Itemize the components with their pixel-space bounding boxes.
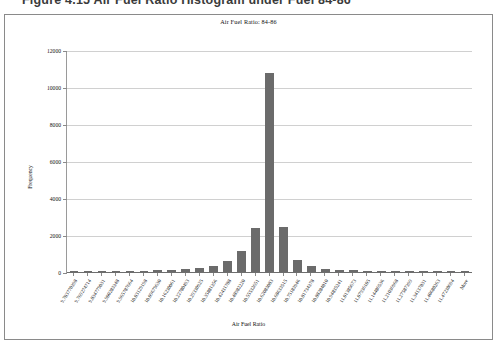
bar-slot bbox=[458, 51, 472, 272]
x-axis-tick bbox=[394, 273, 395, 276]
bar-slot bbox=[123, 51, 137, 272]
x-axis-tick bbox=[227, 273, 228, 276]
x-axis-tick bbox=[310, 273, 311, 276]
bar-slot bbox=[318, 51, 332, 272]
plot-area: 120001000080006000400020000 bbox=[66, 51, 472, 273]
x-axis-tick bbox=[269, 273, 270, 276]
bar-slot bbox=[388, 51, 402, 272]
bar-slot bbox=[95, 51, 109, 272]
bar-slot bbox=[291, 51, 305, 272]
x-axis-tick bbox=[450, 273, 451, 276]
x-axis-title: Air Fuel Ratio bbox=[5, 321, 492, 327]
bar-slot bbox=[67, 51, 81, 272]
chart-title: Air Fuel Ratio: 84-86 bbox=[5, 18, 492, 25]
bar-slot bbox=[137, 51, 151, 272]
bar bbox=[279, 227, 288, 272]
bar-slot bbox=[360, 51, 374, 272]
y-axis-tick-label: 12000 bbox=[47, 48, 61, 54]
bar bbox=[223, 261, 232, 272]
bar-slot bbox=[332, 51, 346, 272]
bar bbox=[265, 73, 274, 272]
x-axis-tick bbox=[436, 273, 437, 276]
bar bbox=[251, 228, 260, 272]
bar-slot bbox=[249, 51, 263, 272]
bar bbox=[237, 251, 246, 272]
x-axis-tick bbox=[422, 273, 423, 276]
x-axis-tick-labels: 9.7037703989.7692747149.8347790319.90028… bbox=[66, 277, 471, 327]
x-axis-tick bbox=[255, 273, 256, 276]
x-axis-tick bbox=[87, 273, 88, 276]
bar-slot bbox=[416, 51, 430, 272]
x-axis-tick bbox=[73, 273, 74, 276]
bar-slot bbox=[402, 51, 416, 272]
bar-slot bbox=[304, 51, 318, 272]
bar-series bbox=[67, 51, 472, 272]
x-axis-tick bbox=[101, 273, 102, 276]
x-axis-tick bbox=[157, 273, 158, 276]
y-axis-tick-label: 6000 bbox=[50, 159, 61, 165]
x-axis-tick bbox=[171, 273, 172, 276]
x-axis-tick bbox=[464, 273, 465, 276]
x-axis-tick bbox=[115, 273, 116, 276]
x-axis-tick bbox=[129, 273, 130, 276]
bar-slot bbox=[235, 51, 249, 272]
x-axis-tick bbox=[380, 273, 381, 276]
x-axis-tick bbox=[241, 273, 242, 276]
x-axis-tick bbox=[324, 273, 325, 276]
bar-slot bbox=[444, 51, 458, 272]
x-axis-tick bbox=[408, 273, 409, 276]
bar-slot bbox=[207, 51, 221, 272]
y-axis-title: Frequency bbox=[27, 165, 33, 189]
bar-slot bbox=[221, 51, 235, 272]
chart-figure-frame: Air Fuel Ratio: 84-86 Frequency 12000100… bbox=[4, 14, 493, 340]
bar-slot bbox=[109, 51, 123, 272]
x-axis-tick-label: More bbox=[458, 278, 469, 291]
y-axis-tick-label: 0 bbox=[58, 270, 61, 276]
x-axis-tick bbox=[199, 273, 200, 276]
bar-slot bbox=[263, 51, 277, 272]
bar-slot bbox=[374, 51, 388, 272]
x-axis-tick bbox=[143, 273, 144, 276]
document-headline: Figure 4.15 Air Fuel Ratio Histogram und… bbox=[22, 0, 351, 7]
bar-slot bbox=[81, 51, 95, 272]
x-axis-tick bbox=[352, 273, 353, 276]
bar-slot bbox=[165, 51, 179, 272]
bar-slot bbox=[430, 51, 444, 272]
y-axis-tick-label: 10000 bbox=[47, 85, 61, 91]
x-axis-tick bbox=[296, 273, 297, 276]
y-axis-tick-label: 4000 bbox=[50, 196, 61, 202]
x-axis-tick bbox=[213, 273, 214, 276]
y-axis-tick-label: 2000 bbox=[50, 233, 61, 239]
x-axis-tick bbox=[283, 273, 284, 276]
x-axis-tick bbox=[366, 273, 367, 276]
x-axis-tick bbox=[338, 273, 339, 276]
bar-slot bbox=[346, 51, 360, 272]
bar-slot bbox=[277, 51, 291, 272]
bar-slot bbox=[193, 51, 207, 272]
bar-slot bbox=[179, 51, 193, 272]
x-axis-tick bbox=[185, 273, 186, 276]
x-label-slot: More bbox=[457, 277, 471, 327]
bar-slot bbox=[151, 51, 165, 272]
y-axis-tick-label: 8000 bbox=[50, 122, 61, 128]
x-label-slot: 11.47238694 bbox=[443, 277, 457, 327]
bar bbox=[293, 260, 302, 272]
